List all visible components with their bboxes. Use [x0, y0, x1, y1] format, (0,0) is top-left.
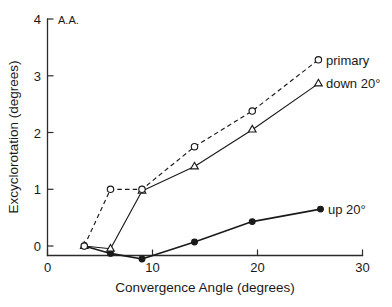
y-tick-label-1: 1: [34, 182, 41, 197]
x-axis-title: Convergence Angle (degrees): [115, 280, 294, 295]
data-point: [139, 186, 145, 192]
series-label-down-20: down 20°: [326, 76, 380, 91]
data-point: [315, 57, 321, 63]
series-up-20: up 20°: [81, 202, 365, 262]
series-up-20-line: [84, 209, 320, 259]
data-point: [248, 125, 256, 132]
subject-annotation: A.A.: [58, 14, 79, 26]
x-tick-label-30: 30: [355, 260, 369, 275]
y-axis-tick-labels: 4 3 2 1 0: [34, 12, 41, 254]
data-point: [318, 206, 324, 212]
y-tick-label-2: 2: [34, 126, 41, 141]
y-tick-label-3: 3: [34, 69, 41, 84]
x-tick-label-20: 20: [250, 260, 264, 275]
x-axis-tick-labels: 0 10 20 30: [44, 260, 370, 275]
chart-figure: 4 3 2 1 0 0 10 20 30 Convergence Angle (…: [0, 0, 392, 307]
series-primary-line: [84, 60, 318, 246]
axes-group: [48, 19, 363, 256]
y-tick-label-4: 4: [34, 12, 41, 27]
x-tick-label-10: 10: [145, 260, 159, 275]
data-point: [192, 239, 198, 245]
data-point: [249, 108, 255, 114]
excyclorotation-vs-convergence-line-chart: 4 3 2 1 0 0 10 20 30 Convergence Angle (…: [0, 0, 392, 307]
data-point: [191, 144, 197, 150]
series-label-primary: primary: [326, 53, 370, 68]
data-point: [249, 219, 255, 225]
y-axis-ticks: [48, 19, 54, 246]
data-point: [315, 79, 323, 86]
data-point: [139, 256, 145, 262]
y-tick-label-0: 0: [34, 239, 41, 254]
series-label-up-20: up 20°: [328, 202, 366, 217]
x-axis-ticks: [48, 250, 363, 256]
data-point: [81, 243, 87, 249]
series-down-20: down 20°: [80, 76, 380, 251]
x-tick-label-0: 0: [44, 260, 51, 275]
data-point: [107, 186, 113, 192]
data-point: [191, 162, 199, 169]
y-axis-title: Excyclorotation (degrees): [6, 60, 21, 213]
data-point: [107, 245, 115, 252]
series-down-20-line: [84, 84, 318, 249]
